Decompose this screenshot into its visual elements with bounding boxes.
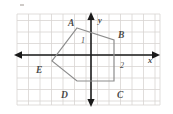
vertex-label-a: A xyxy=(67,18,74,28)
x-axis-arrow-right-icon xyxy=(152,51,160,58)
y-axis-arrow-down-icon xyxy=(87,99,94,107)
x-axis xyxy=(14,51,160,58)
x-unit-tick-label: 2 xyxy=(120,61,124,70)
coordinate-plane-svg: A B C D E y x 1 2 xyxy=(0,0,173,114)
vertex-label-c: C xyxy=(117,90,124,100)
y-unit-tick-label: 1 xyxy=(81,36,85,45)
y-axis-label: y xyxy=(97,15,102,25)
vertex-label-e: E xyxy=(35,65,42,75)
vertex-label-d: D xyxy=(60,90,68,100)
y-axis xyxy=(87,12,94,107)
y-axis-arrow-up-icon xyxy=(87,12,94,20)
x-axis-label: x xyxy=(147,55,153,65)
x-axis-arrow-left-icon xyxy=(14,51,22,58)
coordinate-plane-figure: A B C D E y x 1 2 xyxy=(0,0,173,114)
scan-artifact xyxy=(20,4,24,6)
grid-lines xyxy=(17,14,160,105)
vertex-label-b: B xyxy=(117,30,124,40)
